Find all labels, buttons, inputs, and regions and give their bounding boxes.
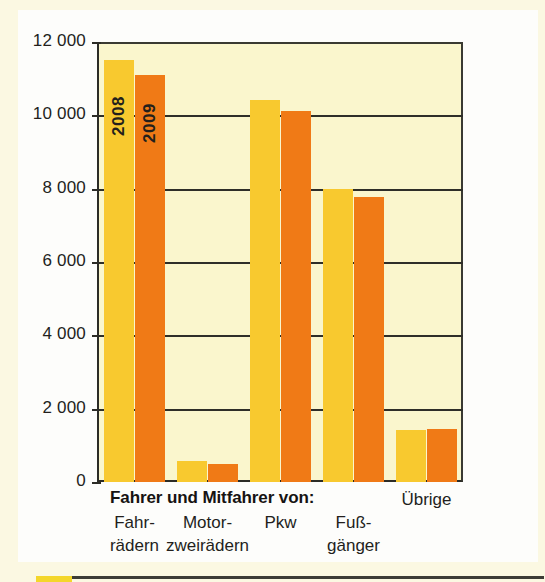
y-axis-tick — [92, 42, 101, 44]
y-axis-tick — [92, 189, 101, 191]
bar-chart: 12 00010 0008 0006 0004 0002 0000 200820… — [18, 10, 538, 562]
x-axis-label-line1: Übrige — [357, 488, 497, 511]
y-axis-tick-label: 2 000 — [0, 398, 86, 418]
chart-page: 12 00010 0008 0006 0004 0002 0000 200820… — [0, 0, 545, 582]
chart-card: 12 00010 0008 0006 0004 0002 0000 200820… — [18, 10, 538, 562]
bar-2008-pkw — [250, 100, 280, 482]
y-axis-tick — [92, 115, 101, 117]
y-axis-tick-label: 6 000 — [0, 251, 86, 271]
bar-2009-fahrrdern: 2009 — [135, 75, 165, 482]
x-axis-label-line2: zweirädern — [138, 534, 278, 557]
x-axis-label-line2: gänger — [284, 534, 424, 557]
series-label-2009: 2009 — [140, 103, 160, 143]
bar-2009-motorzweirdern — [208, 464, 238, 482]
y-axis-tick — [92, 335, 101, 337]
footer-rule — [36, 576, 544, 579]
y-axis-tick — [92, 409, 101, 411]
bar-2009-fugnger — [354, 197, 384, 482]
y-axis-tick — [92, 262, 101, 264]
bar-2008-fahrrdern: 2008 — [104, 60, 134, 482]
y-axis-tick-label: 10 000 — [0, 104, 86, 124]
x-axis-label: Übrige — [357, 488, 497, 511]
y-axis-tick-label: 4 000 — [0, 324, 86, 344]
bar-2008-fugnger — [323, 189, 353, 482]
y-axis-tick-label: 12 000 — [0, 31, 86, 51]
y-axis-tick-label: 8 000 — [0, 178, 86, 198]
bar-2009-brige — [427, 429, 457, 482]
x-axis-label: Fuß-gänger — [284, 511, 424, 557]
x-axis-labels: Fahrer und Mitfahrer von: Fahr-rädernMot… — [18, 488, 538, 562]
bar-2009-pkw — [281, 111, 311, 482]
series-label-2008: 2008 — [109, 96, 129, 136]
bar-2008-motorzweirdern — [177, 461, 207, 482]
x-axis-label-line1: Fuß- — [284, 511, 424, 534]
bar-2008-brige — [396, 430, 426, 482]
y-axis-tick — [92, 482, 101, 484]
footer-color-swatch — [36, 576, 72, 582]
